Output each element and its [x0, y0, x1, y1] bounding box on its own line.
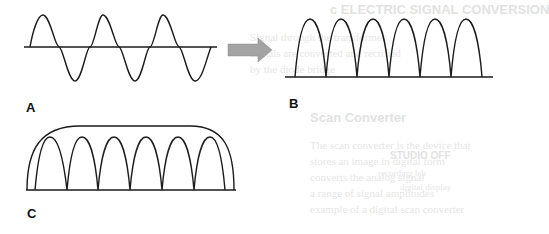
- panel-label-b: B: [289, 96, 298, 111]
- panel-b-rectified-wave: [285, 19, 493, 77]
- panel-label-a: A: [26, 100, 35, 115]
- panel-label-c: C: [27, 206, 36, 221]
- sine-curve: [30, 15, 211, 81]
- rectified-curve: [295, 19, 482, 77]
- panel-c-smoothed-wave: [26, 126, 236, 190]
- arrow-right-icon: [228, 38, 272, 62]
- panel-a-sine-wave: [24, 15, 217, 81]
- rectified-curve: [35, 137, 225, 190]
